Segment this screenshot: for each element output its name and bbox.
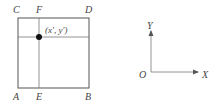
label-b: B <box>85 91 91 102</box>
x-axis-label: X <box>201 69 209 80</box>
label-c: C <box>13 4 20 15</box>
square-figure: C F D A E B (x′, y′) <box>12 4 93 102</box>
label-d: D <box>84 4 93 15</box>
point-coordinate-label: (x′, y′) <box>45 25 67 35</box>
label-e: E <box>35 91 42 102</box>
label-a: A <box>12 91 20 102</box>
point-dot <box>36 34 42 40</box>
label-f: F <box>35 4 43 15</box>
y-axis-label: Y <box>147 20 154 31</box>
diagram-canvas: C F D A E B (x′, y′) Y O X <box>0 0 222 106</box>
coordinate-axes: Y O X <box>139 20 209 80</box>
origin-label: O <box>139 69 146 80</box>
